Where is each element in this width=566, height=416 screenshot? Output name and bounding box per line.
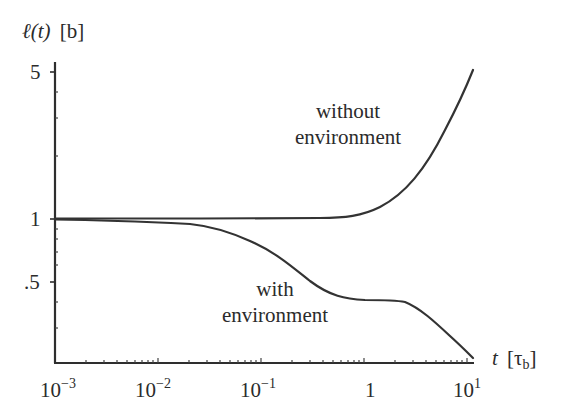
y-axis-label-symbol: ℓ(t) <box>22 19 51 43</box>
annotation-with-environment: with environment <box>210 276 340 328</box>
y-axis-label: ℓ(t) [b] <box>22 21 84 42</box>
x-axis-label: t [τb] <box>492 348 537 369</box>
y-tick-5: 5 <box>30 62 41 83</box>
x-tick-1e-2: 10−2 <box>135 380 171 401</box>
plot-area <box>0 0 566 416</box>
y-axis-label-unit: [b] <box>60 19 85 43</box>
y-tick-1: 1 <box>30 209 41 230</box>
x-axis-label-symbol: t <box>492 346 498 370</box>
x-tick-1e1: 101 <box>453 380 481 401</box>
x-axis-label-unit: [τb] <box>507 346 536 370</box>
x-tick-1e-1: 10−1 <box>240 380 276 401</box>
x-tick-1: 1 <box>365 380 376 401</box>
annotation-without-environment: without environment <box>268 98 428 150</box>
x-tick-1e-3: 10−3 <box>40 380 76 401</box>
y-tick-0-5: .5 <box>24 272 40 293</box>
